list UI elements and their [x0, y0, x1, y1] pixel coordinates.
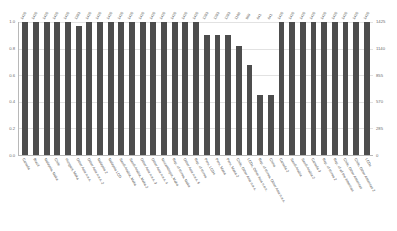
bar-slot — [84, 22, 95, 155]
bar[interactable] — [193, 22, 199, 155]
top-label-slot: 1425 — [126, 0, 137, 22]
bottom-label-slot: Rep. of all the Americas — [329, 157, 340, 231]
top-label-slot: 1383 — [73, 0, 84, 22]
y-tick-label-right: 285 — [376, 127, 383, 131]
bottom-label-slot: Saudi Arabia 2 — [297, 157, 308, 231]
bar[interactable] — [182, 22, 188, 155]
bar-slot — [351, 22, 362, 155]
bar[interactable] — [44, 22, 50, 155]
bottom-label-slot: Canada 3 — [308, 157, 319, 231]
bar-value-label: 1425 — [96, 12, 103, 21]
bottom-label-slot: Rep. of Korea, Maka — [169, 157, 180, 231]
y-axis-right: 028557085511401425 — [374, 22, 397, 156]
bottom-label-slot: Peru, LCDs — [201, 157, 212, 231]
bar[interactable] — [129, 22, 135, 155]
bar[interactable] — [150, 22, 156, 155]
bar-slot — [265, 22, 276, 155]
bar-slot — [63, 22, 74, 155]
bar[interactable] — [215, 35, 221, 155]
plot-area — [18, 22, 373, 156]
bar[interactable] — [86, 22, 92, 155]
top-label-slot: 1425 — [329, 0, 340, 22]
bar[interactable] — [172, 22, 178, 155]
bar-slot — [308, 22, 319, 155]
bar-slot — [297, 22, 308, 155]
bar[interactable] — [97, 22, 103, 155]
bar-value-label: 1425 — [182, 12, 189, 21]
top-label-slot: 1425 — [62, 0, 73, 22]
bar-slot — [137, 22, 148, 155]
bar[interactable] — [279, 22, 285, 155]
bar-value-label: 1425 — [310, 12, 317, 21]
bar-value-label: 1425 — [53, 12, 60, 21]
bottom-label-slot: Hungary, Maka — [62, 157, 73, 231]
bar-series — [19, 22, 373, 155]
top-label-slot: 1425 — [137, 0, 148, 22]
bar-slot — [169, 22, 180, 155]
bar[interactable] — [65, 22, 71, 155]
bar[interactable] — [364, 22, 370, 155]
bar[interactable] — [247, 65, 253, 155]
bar-value-label: 1425 — [32, 12, 39, 21]
top-label-slot: 1425 — [94, 0, 105, 22]
bar[interactable] — [108, 22, 114, 155]
top-label-slot: 1425 — [340, 0, 351, 22]
bar[interactable] — [76, 26, 82, 155]
bar-value-label: 1425 — [364, 12, 371, 21]
bar-value-label: 1425 — [160, 12, 167, 21]
bar[interactable] — [311, 22, 317, 155]
y-tick-label-left: 0.6 — [9, 74, 15, 78]
bar-slot — [329, 22, 340, 155]
bottom-label-slot: Mozambique, Maka — [158, 157, 169, 231]
bar[interactable] — [236, 46, 242, 155]
top-label-slot: 1283 — [222, 0, 233, 22]
y-tick-label-right: 1425 — [376, 20, 385, 24]
bar[interactable] — [161, 22, 167, 155]
y-tick-label-left: 0.0 — [9, 154, 15, 158]
bar[interactable] — [140, 22, 146, 155]
bar[interactable] — [33, 22, 39, 155]
bar-value-label: 1283 — [203, 12, 210, 21]
bottom-label-slot: Peru, Maka — [212, 157, 223, 231]
bar[interactable] — [321, 22, 327, 155]
bar[interactable] — [118, 22, 124, 155]
bar-value-label: 1168 — [235, 13, 242, 21]
bar[interactable] — [204, 35, 210, 155]
bar-value-label: 1383 — [75, 12, 82, 21]
bar[interactable] — [353, 22, 359, 155]
bar-slot — [287, 22, 298, 155]
top-label-slot: 1425 — [169, 0, 180, 22]
bar-slot — [212, 22, 223, 155]
bar[interactable] — [22, 22, 28, 155]
bar[interactable] — [54, 22, 60, 155]
bar-slot — [20, 22, 31, 155]
y-tick-label-left: 1.0 — [9, 20, 15, 24]
bottom-label-slot: Malaysia, Maka — [40, 157, 51, 231]
bar-value-labels: 1425142514251425142513831425142514251425… — [18, 0, 373, 22]
bottom-label-slot: China — [265, 157, 276, 231]
bar[interactable] — [300, 22, 306, 155]
bottom-label-slot: Other Asia n.e.s. — [73, 157, 84, 231]
bar[interactable] — [268, 95, 274, 155]
bar[interactable] — [343, 22, 349, 155]
top-label-slot: 1425 — [105, 0, 116, 22]
bar-value-label: 1425 — [289, 12, 296, 21]
bar-slot — [159, 22, 170, 155]
bottom-label-slot: Saudi Arabia — [287, 157, 298, 231]
bar-value-label: 641 — [257, 14, 263, 21]
top-label-slot: 1425 — [51, 0, 62, 22]
top-label-slot: 969 — [244, 0, 255, 22]
top-label-slot: 1425 — [287, 0, 298, 22]
bar-slot — [233, 22, 244, 155]
bar[interactable] — [225, 35, 231, 155]
bar-slot — [276, 22, 287, 155]
bar[interactable] — [332, 22, 338, 155]
bar[interactable] — [289, 22, 295, 155]
bar[interactable] — [257, 95, 263, 155]
top-label-slot: 1425 — [19, 0, 30, 22]
top-label-slot: 1425 — [351, 0, 362, 22]
bar-slot — [31, 22, 42, 155]
bottom-label-slot: Rep. of Korea 2 — [319, 157, 330, 231]
bar-value-label: 1425 — [332, 12, 339, 21]
bar-slot — [116, 22, 127, 155]
